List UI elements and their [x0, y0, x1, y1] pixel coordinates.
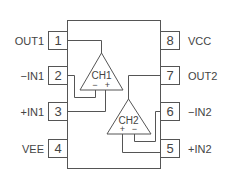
wire-out1 — [68, 41, 102, 54]
pin-1: 1 OUT1 — [15, 32, 68, 50]
pin-3-number: 3 — [54, 104, 61, 119]
op-amp-pinout-diagram: 1 OUT1 2 −IN1 3 +IN1 4 VEE 8 VCC 7 OUT2 … — [0, 0, 231, 185]
op-amp-ch2: CH2 + − — [107, 99, 151, 134]
wire-in2-plus — [123, 134, 161, 153]
pin-7-number: 7 — [166, 68, 173, 83]
ch2-plus-sign: + — [120, 124, 125, 134]
wire-in1-plus — [68, 90, 106, 112]
pin-5-number: 5 — [166, 141, 173, 156]
pin-4-label: VEE — [22, 143, 44, 155]
ch1-minus-sign: − — [92, 80, 97, 90]
pin-1-label: OUT1 — [15, 35, 44, 47]
pin-6-label: −IN2 — [188, 106, 212, 118]
pin-4-number: 4 — [54, 141, 61, 156]
pin-3: 3 +IN1 — [20, 103, 67, 121]
pin-6-number: 6 — [166, 104, 173, 119]
pin-8-number: 8 — [166, 33, 173, 48]
pin-1-number: 1 — [54, 33, 61, 48]
wire-out2 — [129, 76, 161, 100]
pin-2: 2 −IN1 — [20, 67, 67, 85]
ch1-plus-sign: + — [105, 80, 110, 90]
pin-7-label: OUT2 — [188, 70, 217, 82]
op-amp-ch1: CH1 − + — [80, 53, 123, 90]
pin-7: 7 OUT2 — [161, 67, 218, 85]
pin-8-label: VCC — [188, 35, 211, 47]
pin-8: 8 VCC — [161, 32, 212, 50]
pin-2-label: −IN1 — [20, 70, 44, 82]
pin-3-label: +IN1 — [20, 106, 44, 118]
pin-2-number: 2 — [54, 68, 61, 83]
pin-5-label: +IN2 — [188, 143, 212, 155]
ch2-minus-sign: − — [132, 124, 137, 134]
chip-body — [68, 21, 161, 169]
pin-6: 6 −IN2 — [161, 103, 212, 121]
pin-5: 5 +IN2 — [161, 140, 212, 158]
pin-4: 4 VEE — [22, 140, 68, 158]
